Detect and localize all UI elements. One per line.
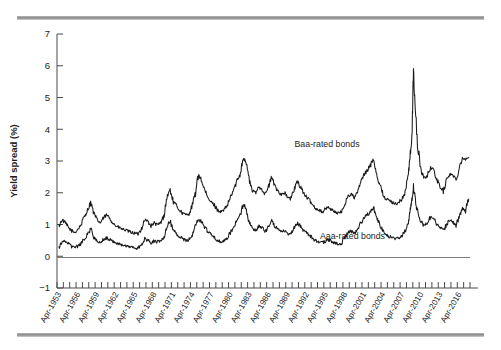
y-tick-label: 2 bbox=[45, 187, 50, 198]
y-tick-label: 5 bbox=[45, 92, 50, 103]
series-lines bbox=[59, 69, 469, 250]
y-tick-label: −1 bbox=[39, 282, 50, 293]
y-tick-label: 0 bbox=[45, 251, 50, 262]
y-tick-label: 1 bbox=[45, 219, 50, 230]
annotation-label: Aaa-rated bonds bbox=[320, 231, 386, 241]
y-axis-title: Yield spread (%) bbox=[8, 124, 19, 198]
y-axis-title-group: Yield spread (%) bbox=[8, 124, 19, 198]
y-tick-label: 6 bbox=[45, 60, 50, 71]
y-tick-label: 4 bbox=[45, 124, 50, 135]
y-axis-ticks: −101234567 bbox=[39, 28, 63, 293]
series-line-baa-rated-bonds bbox=[59, 69, 469, 236]
yield-spread-chart: Yield spread (%) −101234567 Apr-1953Apr-… bbox=[0, 0, 501, 350]
annotation-label: Baa-rated bonds bbox=[295, 139, 361, 149]
y-tick-label: 3 bbox=[45, 155, 50, 166]
x-axis-tick-labels: Apr-1953Apr-1956Apr-1959Apr-1962Apr-1965… bbox=[39, 290, 464, 324]
y-tick-label: 7 bbox=[45, 28, 50, 39]
series-annotations: Baa-rated bondsAaa-rated bonds bbox=[295, 139, 386, 241]
x-axis-ticks bbox=[57, 282, 470, 288]
